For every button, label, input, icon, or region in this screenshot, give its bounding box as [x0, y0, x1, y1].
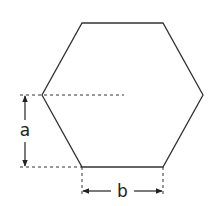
hexagon-diagram: a b — [0, 0, 218, 206]
dimension-a-label: a — [20, 120, 30, 140]
dimension-b-label: b — [117, 181, 128, 201]
diagram-svg: a b — [0, 0, 218, 206]
